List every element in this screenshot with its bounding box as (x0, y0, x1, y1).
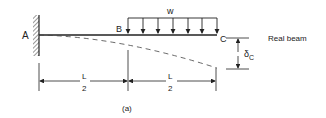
load-label: w (166, 6, 174, 16)
svg-text:2: 2 (168, 84, 173, 93)
svg-text:L: L (82, 72, 87, 81)
svg-text:L: L (168, 72, 173, 81)
cantilever-beam-diagram: w A B C δC Real beam L 2 L 2 (a) (0, 0, 326, 118)
point-a-label: A (22, 30, 29, 41)
title-label: Real beam (268, 34, 307, 43)
dimension-right: L 2 (168, 72, 173, 93)
svg-text:2: 2 (82, 84, 87, 93)
deflection-label: δC (244, 49, 254, 61)
distributed-load (128, 18, 217, 33)
fixed-support (33, 15, 39, 56)
length-dimensions (39, 50, 216, 91)
point-b-label: B (116, 24, 122, 34)
point-c-label: C (220, 34, 227, 44)
caption: (a) (122, 104, 132, 113)
dimension-left: L 2 (82, 72, 87, 93)
